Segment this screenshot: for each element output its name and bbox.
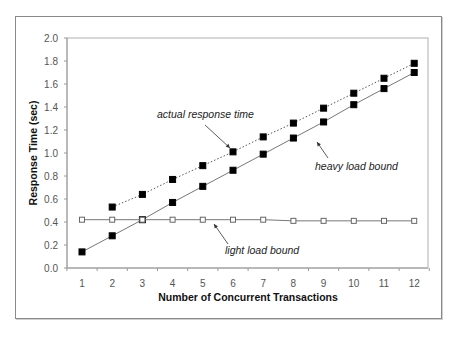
x-tick-label: 9 <box>321 278 327 289</box>
y-axis: 0.00.20.40.60.81.01.21.41.61.82.0 <box>44 33 67 274</box>
filled-square-marker <box>139 191 145 197</box>
x-tick-label: 10 <box>348 278 360 289</box>
open-square-marker <box>412 218 417 223</box>
plot-border <box>67 38 428 268</box>
y-tick-label: 1.0 <box>44 148 58 159</box>
series-line <box>82 220 414 221</box>
filled-square-marker <box>109 233 115 239</box>
x-tick-label: 6 <box>230 278 236 289</box>
open-square-marker <box>351 218 356 223</box>
y-tick-label: 1.4 <box>44 102 58 113</box>
filled-square-marker <box>381 75 387 81</box>
y-tick-label: 1.6 <box>44 79 58 90</box>
filled-square-marker <box>290 135 296 141</box>
x-tick-label: 11 <box>379 278 390 289</box>
open-square-marker <box>261 217 266 222</box>
y-tick-label: 0.2 <box>44 240 58 251</box>
x-axis-title: Number of Concurrent Transactions <box>158 291 338 303</box>
chart: 0.00.20.40.60.81.01.21.41.61.82.0 123456… <box>0 0 458 339</box>
filled-square-marker <box>79 249 85 255</box>
open-square-marker <box>110 217 115 222</box>
open-square-marker <box>291 218 296 223</box>
filled-square-marker <box>170 199 176 205</box>
filled-square-marker <box>170 176 176 182</box>
open-square-marker <box>170 217 175 222</box>
arrowhead-icon <box>214 224 218 228</box>
x-tick-label: 1 <box>79 278 85 289</box>
y-tick-label: 0.0 <box>44 263 58 274</box>
series-actual-response-time <box>109 60 417 210</box>
y-axis-title: Response Time (sec) <box>27 101 39 206</box>
filled-square-marker <box>411 70 417 76</box>
filled-square-marker <box>260 151 266 157</box>
annotation-label: light load bound <box>225 244 300 256</box>
open-square-marker <box>200 217 205 222</box>
arrowhead-icon <box>317 142 321 146</box>
filled-square-marker <box>109 204 115 210</box>
filled-square-marker <box>230 167 236 173</box>
y-tick-label: 0.6 <box>44 194 58 205</box>
open-square-marker <box>382 218 387 223</box>
filled-square-marker <box>411 60 417 66</box>
open-square-marker <box>140 217 145 222</box>
filled-square-marker <box>200 183 206 189</box>
filled-square-marker <box>321 119 327 125</box>
filled-square-marker <box>260 134 266 140</box>
y-tick-label: 0.8 <box>44 171 58 182</box>
annotation-label: actual response time <box>157 108 254 120</box>
x-tick-label: 2 <box>109 278 115 289</box>
series-layer <box>79 60 417 255</box>
x-tick-label: 8 <box>291 278 297 289</box>
filled-square-marker <box>230 149 236 155</box>
annotation-label: heavy load bound <box>315 160 399 172</box>
x-tick-label: 4 <box>170 278 176 289</box>
filled-square-marker <box>290 120 296 126</box>
filled-square-marker <box>351 102 357 108</box>
x-tick-label: 7 <box>260 278 266 289</box>
x-tick-label: 3 <box>140 278 146 289</box>
filled-square-marker <box>381 86 387 92</box>
open-square-marker <box>80 217 85 222</box>
open-square-marker <box>321 218 326 223</box>
open-square-marker <box>231 217 236 222</box>
x-tick-label: 5 <box>200 278 206 289</box>
y-tick-label: 1.8 <box>44 56 58 67</box>
x-tick-label: 12 <box>409 278 421 289</box>
filled-square-marker <box>200 163 206 169</box>
y-tick-label: 1.2 <box>44 125 58 136</box>
filled-square-marker <box>351 90 357 96</box>
series-light-load-bound <box>80 217 417 223</box>
filled-square-marker <box>321 105 327 111</box>
plot-area <box>67 38 428 268</box>
y-tick-label: 2.0 <box>44 33 58 44</box>
y-tick-label: 0.4 <box>44 217 58 228</box>
x-axis: 123456789101112 <box>67 268 429 289</box>
annotation-arrow <box>205 125 230 148</box>
